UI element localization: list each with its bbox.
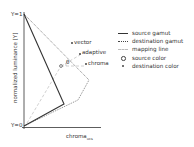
- legend-item-source-color: source color: [118, 54, 194, 62]
- destination-color-vector: [71, 42, 73, 44]
- adaptive-label: adaptive: [82, 49, 107, 56]
- open-circle-icon: [118, 55, 128, 61]
- gamut-mapping-diagram: Y=1 Y=0 normalized luminance [Y] chromau…: [0, 0, 194, 147]
- legend-label: mapping line: [132, 46, 169, 52]
- filled-dot-icon: [118, 63, 128, 69]
- legend-label: source color: [132, 55, 166, 61]
- source-color-marker: [60, 65, 63, 68]
- legend-item-source-gamut: source gamut: [118, 29, 194, 37]
- destination-color-adaptive: [79, 53, 81, 55]
- destination-gamut-line: [24, 14, 89, 126]
- dashed-line-icon: [118, 46, 128, 52]
- legend-item-destination-gamut: destination gamut: [118, 37, 194, 45]
- y-top-tick: Y=1: [10, 11, 22, 17]
- dotted-line-icon: [118, 38, 128, 44]
- mapping-line-adaptive: [61, 55, 80, 66]
- y-bottom-tick: Y=0: [10, 122, 23, 128]
- solid-line-icon: [118, 30, 128, 36]
- legend: source gamut destination gamut mapping l…: [118, 29, 194, 70]
- destination-color-chroma: [85, 63, 87, 65]
- legend-label: destination gamut: [132, 38, 183, 44]
- source-gamut-line: [24, 14, 64, 126]
- legend-item-mapping-line: mapping line: [118, 45, 194, 53]
- vector-label: vector: [74, 39, 92, 45]
- legend-label: source gamut: [132, 30, 171, 36]
- y-axis-label: normalized luminance [Y]: [12, 33, 18, 103]
- legend-label: destination color: [132, 63, 179, 69]
- legend-item-destination-color: destination color: [118, 62, 194, 70]
- chroma-label: chroma: [88, 60, 109, 66]
- x-axis-label: chromaucs: [66, 133, 93, 141]
